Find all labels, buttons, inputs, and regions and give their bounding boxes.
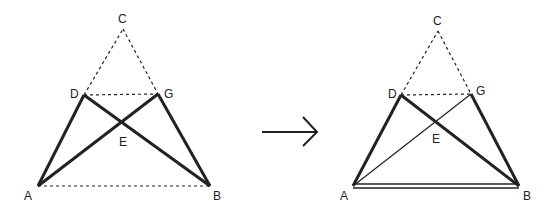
segment-dc-dashed <box>401 31 438 95</box>
label-g: G <box>164 87 173 101</box>
segment-db-thick <box>84 95 210 186</box>
label-c: C <box>118 12 127 26</box>
label-d: D <box>70 87 79 101</box>
segment-ad-thick <box>353 95 401 186</box>
label-e: E <box>119 135 127 149</box>
left-figure <box>38 29 210 186</box>
segment-ag-thick <box>38 94 158 186</box>
segment-db-thick <box>401 95 519 186</box>
segment-ad-thick <box>38 95 84 186</box>
segment-dg-dashed <box>401 94 471 95</box>
label-a: A <box>24 189 32 203</box>
segment-gb-thick <box>471 94 519 186</box>
diagram-canvas: C D G E A B C D G E A B <box>0 0 556 209</box>
right-figure <box>353 31 519 188</box>
label-b: B <box>523 189 531 203</box>
label-b: B <box>213 189 221 203</box>
segment-dg-dashed <box>84 94 158 95</box>
segment-cg-dashed <box>123 29 158 94</box>
label-d: D <box>388 87 397 101</box>
segment-gb-thick <box>158 94 210 186</box>
segment-cg-dashed <box>438 31 471 94</box>
segment-ag-thin <box>353 94 471 186</box>
segment-dc-dashed <box>84 29 123 95</box>
label-g: G <box>476 84 485 98</box>
label-c: C <box>433 14 442 28</box>
transform-arrow-icon <box>262 117 317 146</box>
label-a: A <box>340 189 348 203</box>
label-e: E <box>432 132 440 146</box>
